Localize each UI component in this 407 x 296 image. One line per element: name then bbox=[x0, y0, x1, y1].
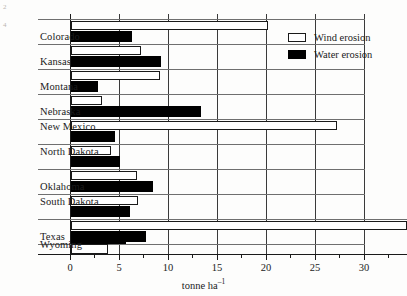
xtick-5 bbox=[119, 254, 120, 260]
category-label-nebraska: Nebraska bbox=[40, 106, 100, 118]
legend-swatch-water-erosion bbox=[288, 50, 306, 59]
xtick-minor-17p5 bbox=[241, 254, 242, 258]
x-axis-title-exponent: –1 bbox=[218, 277, 226, 286]
xtick-label-30: 30 bbox=[349, 262, 379, 274]
bar-wind-kansas bbox=[71, 46, 141, 55]
xtick-10 bbox=[168, 254, 169, 260]
row-rule-oklahoma bbox=[38, 194, 365, 195]
row-rule-top bbox=[38, 19, 365, 20]
category-label-colorado: Colorado bbox=[40, 31, 100, 43]
xtick-25 bbox=[315, 254, 316, 260]
xtick-minor-22p5 bbox=[290, 254, 291, 258]
legend-label-water-erosion: Water erosion bbox=[314, 47, 372, 62]
erosion-bar-chart-figure: 2 4 Colorado Kansas Montana Nebraska bbox=[0, 0, 407, 296]
xtick-label-25: 25 bbox=[300, 262, 330, 274]
category-label-montana: Montana bbox=[40, 81, 100, 93]
bar-wind-new-mexico bbox=[71, 121, 337, 130]
xtick-label-15: 15 bbox=[202, 262, 232, 274]
row-rule-nebraska bbox=[38, 119, 365, 120]
gridline-10 bbox=[168, 14, 169, 254]
legend-item-water-erosion: Water erosion bbox=[288, 47, 400, 64]
gridline-15 bbox=[217, 14, 218, 254]
row-rule-new-mexico bbox=[38, 144, 365, 145]
bar-water-north-dakota bbox=[71, 156, 120, 167]
category-label-oklahoma: Oklahoma bbox=[40, 181, 100, 193]
bar-wind-montana bbox=[71, 71, 160, 80]
legend-label-wind-erosion: Wind erosion bbox=[314, 30, 370, 45]
bar-wind-nebraska bbox=[71, 96, 102, 105]
xtick-15 bbox=[217, 254, 218, 260]
category-label-south-dakota: South Dakota bbox=[40, 196, 100, 208]
category-label-wyoming: Wyoming bbox=[40, 239, 100, 251]
bar-water-new-mexico bbox=[71, 131, 115, 142]
xtick-label-20: 20 bbox=[251, 262, 281, 274]
xtick-20 bbox=[266, 254, 267, 260]
xtick-label-5: 5 bbox=[104, 262, 134, 274]
scan-artifact-lower: 4 bbox=[3, 22, 7, 29]
xtick-label-10: 10 bbox=[153, 262, 183, 274]
row-rule-south-dakota bbox=[38, 219, 407, 220]
bar-wind-texas bbox=[71, 221, 407, 230]
xtick-minor-27p5 bbox=[339, 254, 340, 258]
x-axis-title: tonne ha–1 bbox=[0, 277, 407, 291]
scan-artifact-top: 2 bbox=[3, 4, 7, 11]
xtick-label-0: 0 bbox=[55, 262, 85, 274]
xtick-minor-12p5 bbox=[192, 254, 193, 258]
bar-wind-colorado bbox=[71, 21, 268, 30]
gridline-20 bbox=[266, 14, 267, 254]
legend-item-wind-erosion: Wind erosion bbox=[288, 30, 400, 47]
xtick-minor-7p5 bbox=[143, 254, 144, 258]
xtick-minor-2p5 bbox=[94, 254, 95, 258]
row-rule-kansas bbox=[38, 69, 365, 70]
category-label-kansas: Kansas bbox=[40, 56, 100, 68]
row-rule-montana bbox=[38, 94, 365, 95]
legend: Wind erosion Water erosion bbox=[288, 30, 400, 64]
row-rule-north-dakota bbox=[38, 169, 365, 170]
xtick-0 bbox=[70, 254, 71, 260]
bar-wind-oklahoma bbox=[71, 171, 137, 180]
category-label-new-mexico: New Mexico bbox=[40, 121, 100, 133]
category-label-north-dakota: North Dakota bbox=[40, 146, 100, 158]
xtick-30 bbox=[364, 254, 365, 260]
xtick-minor-32p5 bbox=[388, 254, 389, 258]
legend-swatch-wind-erosion bbox=[288, 33, 306, 42]
bar-water-south-dakota bbox=[71, 206, 130, 217]
x-axis-title-main: tonne ha bbox=[182, 280, 218, 291]
